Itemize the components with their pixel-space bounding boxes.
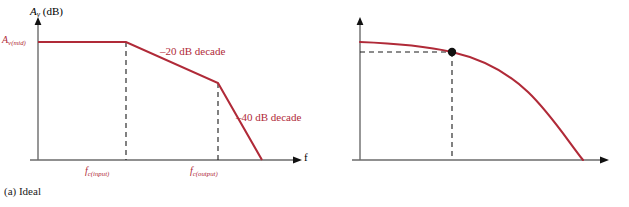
- x-axis-arrowhead: [293, 156, 302, 163]
- annotation-slope-20db: –20 dB decade: [160, 46, 225, 57]
- x-tick-label-fc-input: fc(input): [85, 166, 109, 178]
- y-axis-title: Av (dB): [30, 6, 63, 19]
- panel-nonideal: Av (dB) –3 dB fc(input) f (b) Nonideal: [320, 0, 629, 207]
- y-axis-title-symbol: A: [30, 5, 37, 17]
- y-axis-title-unit: (dB): [40, 5, 63, 17]
- x-tick-subscript: c(output): [193, 170, 218, 177]
- x-axis-arrowhead: [600, 156, 609, 163]
- y-tick-subscript: v(mid): [8, 39, 26, 46]
- figure-frequency-response: Av (dB) Av(mid) fc(input) fc(output) f –…: [0, 0, 629, 207]
- x-axis-title: f: [304, 152, 308, 163]
- nonideal-response-curve: [360, 42, 583, 160]
- panel-caption-ideal: (a) Ideal: [4, 186, 41, 197]
- panel-ideal: Av (dB) Av(mid) fc(input) fc(output) f –…: [0, 0, 320, 207]
- x-tick-label-fc-output: fc(output): [190, 166, 218, 178]
- ideal-plot-svg: [0, 0, 320, 207]
- ideal-response-curve: [38, 42, 262, 160]
- y-axis-arrowhead: [357, 17, 364, 25]
- y-tick-label-avmid: Av(mid): [2, 35, 26, 47]
- nonideal-plot-svg: [320, 0, 629, 207]
- x-tick-subscript: c(input): [88, 170, 110, 177]
- annotation-slope-40db: –40 dB decade: [236, 112, 301, 123]
- minus-3db-point-marker: [448, 48, 456, 56]
